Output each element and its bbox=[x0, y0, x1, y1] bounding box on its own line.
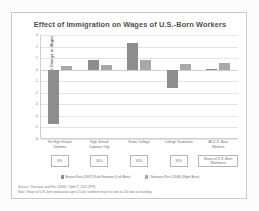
legend-swatch-icon bbox=[145, 175, 148, 178]
bar-group bbox=[81, 35, 121, 138]
y-tick-label: -6 bbox=[35, 137, 38, 141]
bar bbox=[180, 64, 191, 70]
x-axis-label: High SchoolDiploma Only bbox=[80, 140, 120, 149]
legend-item: Borjas-Katz (2007) Rule Estimate (Left B… bbox=[61, 175, 131, 179]
y-tick-label: -5 bbox=[35, 125, 38, 129]
bar bbox=[48, 70, 59, 124]
methodology-note: Note: Share of U.S.-born population ages… bbox=[18, 190, 244, 195]
y-axis-tick-labels: 3210-1-2-3-4-5-6 bbox=[30, 35, 39, 139]
share-box: 30% bbox=[90, 155, 108, 167]
x-axis-label: Some College bbox=[119, 140, 159, 145]
y-tick-label: -2 bbox=[35, 91, 38, 95]
legend-label: Ottaviano-Peri (2006) (Right Bars) bbox=[149, 175, 199, 179]
bar bbox=[127, 43, 138, 70]
y-tick-label: -3 bbox=[35, 102, 38, 106]
x-axis-label: No High SchoolDiploma bbox=[40, 140, 80, 149]
y-tick-label: 3 bbox=[36, 33, 38, 37]
bar-group bbox=[160, 35, 200, 138]
chart-title: Effect of Immigration on Wages of U.S.-B… bbox=[12, 20, 248, 29]
x-axis-label: All U.S.-BornWorkers bbox=[198, 140, 238, 149]
y-tick-label: -4 bbox=[35, 114, 38, 118]
bar bbox=[61, 66, 72, 69]
bar bbox=[167, 70, 178, 88]
bar bbox=[219, 63, 230, 70]
share-box: 30% bbox=[130, 155, 148, 167]
legend-item: Ottaviano-Peri (2006) (Right Bars) bbox=[145, 175, 200, 179]
y-tick-label: -1 bbox=[35, 79, 38, 83]
chart-card: Effect of Immigration on Wages of U.S.-B… bbox=[11, 12, 247, 199]
legend-swatch-icon bbox=[61, 175, 64, 178]
bar bbox=[206, 69, 217, 70]
bar bbox=[88, 60, 99, 69]
legend-label: Borjas-Katz (2007) Rule Estimate (Left B… bbox=[65, 175, 130, 179]
bar-group bbox=[120, 35, 160, 138]
share-box: 8% bbox=[51, 155, 69, 167]
share-of-workforce-boxes: 8%30%30%33%Share of U.S.-BornWorkforce bbox=[40, 155, 238, 170]
share-box: 33% bbox=[170, 155, 188, 167]
y-tick-label: 1 bbox=[36, 56, 38, 60]
chart-footnotes: Source: Ottaviano and Peri (2006), Table… bbox=[18, 185, 244, 195]
x-axis-label: College Graduates bbox=[159, 140, 199, 145]
share-box-legend: Share of U.S.-BornWorkforce bbox=[198, 155, 238, 167]
chart-legend: Borjas-Katz (2007) Rule Estimate (Left B… bbox=[12, 175, 248, 179]
x-axis-category-labels: No High SchoolDiplomaHigh SchoolDiploma … bbox=[40, 140, 238, 153]
bar-group bbox=[41, 35, 81, 138]
bar-group bbox=[199, 35, 239, 138]
bar bbox=[101, 65, 112, 70]
plot-area bbox=[40, 35, 238, 139]
plot-area-wrapper: Percent Change in Wages 3210-1-2-3-4-5-6 bbox=[30, 35, 240, 151]
y-tick-label: 2 bbox=[36, 45, 38, 49]
y-tick-label: 0 bbox=[36, 68, 38, 72]
bar bbox=[140, 60, 151, 70]
screenshot-root: Effect of Immigration on Wages of U.S.-B… bbox=[0, 0, 259, 211]
